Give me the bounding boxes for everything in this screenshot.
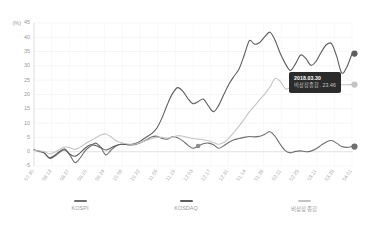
y-axis-tick-label: 15 xyxy=(24,105,30,111)
tooltip-date: 2018.03.30 xyxy=(294,75,336,82)
y-axis-tick-label: 30 xyxy=(24,62,30,68)
x-axis-tick-label: 08.13 xyxy=(40,168,52,182)
y-axis-tick-label: 40 xyxy=(24,34,30,40)
legend-label-unlisted-composite: 비상장 종합 xyxy=(274,205,334,213)
x-axis-tick-label: 02.11 xyxy=(270,168,282,182)
y-axis-unit: (%) xyxy=(12,20,21,26)
y-axis-tick-label: 5 xyxy=(27,134,30,140)
y-axis-ticks: -5051015202530354045 xyxy=(24,19,30,168)
y-axis-unit-label: (%) xyxy=(12,20,21,26)
legend-item-kospi[interactable]: KOSPI xyxy=(50,200,110,211)
tooltip-metric-value: 23.46 xyxy=(323,82,336,88)
y-axis-tick-label: 0 xyxy=(27,148,30,154)
endpoint-dot-kosdaq xyxy=(351,51,357,57)
y-axis-tick-label: 10 xyxy=(24,120,30,126)
legend-label-kospi: KOSPI xyxy=(50,205,110,211)
x-axis-tick-label: 03.25 xyxy=(323,168,335,182)
y-axis-tick-label: 25 xyxy=(24,77,30,83)
y-axis-tick-label: 45 xyxy=(24,19,30,25)
x-axis-tick-label: 09.24 xyxy=(93,168,105,182)
legend-swatch-kosdaq xyxy=(180,200,193,202)
x-axis-tick-label: 08.27 xyxy=(58,168,70,182)
x-axis-tick-label: 10.08 xyxy=(111,168,123,182)
legend-item-kosdaq[interactable]: KOSDAQ xyxy=(156,200,216,211)
x-axis-tick-label: 11.19 xyxy=(164,168,176,182)
x-axis-tick-label: 01.28 xyxy=(252,168,264,182)
legend-swatch-kospi xyxy=(74,200,87,202)
endpoint-dot-unlisted-composite xyxy=(351,82,357,88)
y-axis-tick-label: -5 xyxy=(25,162,30,168)
y-axis-tick-label: 20 xyxy=(24,91,30,97)
x-axis-tick-label: 12.17 xyxy=(199,168,211,182)
stock-index-line-chart: -5051015202530354045 (%) 07.3008.1308.27… xyxy=(0,0,367,228)
x-axis-tick-label: 03.11 xyxy=(306,168,318,182)
x-axis-tick-label: 11.05 xyxy=(147,168,159,182)
y-axis-tick-label: 35 xyxy=(24,48,30,54)
legend-item-unlisted-composite[interactable]: 비상장 종합 xyxy=(274,200,334,213)
x-axis-tick-label: 09.10 xyxy=(76,168,88,182)
tooltip-marker-dot xyxy=(196,144,201,149)
x-axis-tick-label: 02.25 xyxy=(288,168,300,182)
legend-swatch-unlisted-composite xyxy=(298,200,311,202)
x-axis-tick-label: 10.22 xyxy=(129,168,141,182)
x-axis-ticks: 07.3008.1308.2709.1009.2410.0810.2211.05… xyxy=(23,168,353,182)
x-axis-tick-label: 12.03 xyxy=(182,168,194,182)
chart-tooltip: 2018.03.30 비상장종합. 23.46 xyxy=(289,72,341,93)
chart-legend: KOSPI KOSDAQ 비상장 종합 xyxy=(0,198,367,224)
x-axis-tick-label: 07.30 xyxy=(23,168,35,182)
endpoint-dot-kospi xyxy=(351,143,357,149)
chart-canvas: -5051015202530354045 (%) 07.3008.1308.27… xyxy=(0,0,367,228)
x-axis-tick-label: 04.01 xyxy=(341,168,353,182)
tooltip-anchor-dot xyxy=(196,144,201,149)
tooltip-value-row: 비상장종합. 23.46 xyxy=(294,82,336,89)
series-endpoint-dots xyxy=(351,51,357,150)
legend-label-kosdaq: KOSDAQ xyxy=(156,205,216,211)
tooltip-metric-label: 비상장종합. xyxy=(294,82,321,88)
x-axis-tick-label: 01.14 xyxy=(235,168,247,182)
x-axis-tick-label: 12.31 xyxy=(217,168,229,182)
